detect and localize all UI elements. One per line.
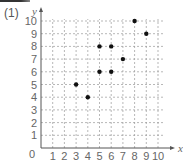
x-axis-arrow-icon: [170, 146, 175, 150]
y-tick-label: 2: [31, 117, 37, 129]
scatter-chart: 12345678910123456789100xy: [0, 0, 183, 164]
data-point: [132, 19, 136, 23]
x-tick-label: 10: [152, 150, 164, 162]
x-tick-label: 3: [73, 150, 79, 162]
data-point: [109, 44, 113, 48]
y-tick-label: 1: [31, 129, 37, 141]
y-tick-label: 6: [31, 66, 37, 78]
x-tick-label: 8: [132, 150, 138, 162]
y-tick-label: 5: [31, 79, 37, 91]
x-tick-label: 4: [85, 150, 91, 162]
x-axis-label: x: [177, 142, 183, 154]
y-tick-label: 4: [31, 91, 37, 103]
origin-label: 0: [29, 148, 35, 160]
data-point: [109, 70, 113, 74]
x-tick-label: 7: [120, 150, 126, 162]
data-point: [97, 44, 101, 48]
y-axis-arrow-icon: [39, 7, 43, 12]
x-tick-label: 2: [61, 150, 67, 162]
y-axis-label: y: [31, 5, 37, 17]
x-tick-label: 1: [50, 150, 56, 162]
data-point: [121, 57, 125, 61]
y-tick-label: 8: [31, 40, 37, 52]
y-tick-label: 9: [31, 28, 37, 40]
data-point: [74, 82, 78, 86]
x-tick-label: 6: [108, 150, 114, 162]
data-point: [86, 95, 90, 99]
data-point: [97, 70, 101, 74]
x-tick-label: 9: [143, 150, 149, 162]
y-tick-label: 3: [31, 104, 37, 116]
data-point: [144, 32, 148, 36]
x-tick-label: 5: [96, 150, 102, 162]
y-tick-label: 7: [31, 53, 37, 65]
